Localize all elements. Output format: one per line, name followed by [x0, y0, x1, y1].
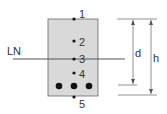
arrow-up-icon [149, 20, 153, 25]
point-3-label: 3 [79, 53, 85, 65]
point-1 [72, 17, 75, 20]
point-4-label: 4 [79, 68, 85, 80]
rebar-left [56, 83, 63, 90]
dim-h-label: h [153, 52, 159, 64]
point-4 [72, 71, 75, 74]
dim-d-label: d [135, 47, 141, 59]
arrow-down-icon [149, 89, 153, 94]
neutral-axis-label: LN [7, 45, 21, 57]
beam-section-diagram: LN 1 2 3 4 5 d h [0, 0, 167, 114]
point-5-label: 5 [79, 98, 85, 110]
point-3 [72, 57, 75, 60]
point-1-label: 1 [79, 8, 85, 20]
point-5 [72, 95, 75, 98]
arrow-down-icon [131, 79, 135, 84]
point-2 [72, 39, 75, 42]
point-2-label: 2 [79, 36, 85, 48]
arrow-up-icon [131, 20, 135, 25]
rebar-right [86, 83, 93, 90]
rebar-center [71, 83, 78, 90]
